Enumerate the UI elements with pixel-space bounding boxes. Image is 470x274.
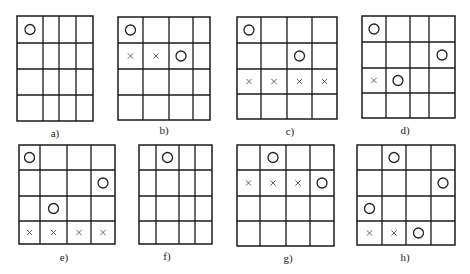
grid-panel-h: h) <box>357 145 455 264</box>
circle-mark-icon <box>393 76 403 86</box>
grid-panel-g: g) <box>237 145 334 265</box>
circle-mark-icon <box>389 153 399 163</box>
circle-mark-icon <box>438 178 448 188</box>
circle-mark-icon <box>25 25 35 35</box>
grid-panel-f: f) <box>139 145 212 263</box>
cross-mark-icon <box>246 79 251 84</box>
cross-mark-icon <box>297 79 302 84</box>
panel-label-e: e) <box>60 251 69 264</box>
circle-mark-icon <box>244 25 254 35</box>
panel-label-b: b) <box>159 124 169 137</box>
grid-panel-e: e) <box>19 145 115 264</box>
circle-mark-icon <box>437 50 447 60</box>
cross-mark-icon <box>322 79 327 84</box>
cross-mark-icon <box>128 53 133 58</box>
cross-mark-icon <box>371 78 376 83</box>
circle-mark-icon <box>369 24 379 34</box>
circle-mark-icon <box>365 204 375 214</box>
cross-mark-icon <box>271 79 276 84</box>
cross-mark-icon <box>270 180 275 185</box>
circle-mark-icon <box>295 51 305 61</box>
grid-frame <box>362 16 455 118</box>
circle-mark-icon <box>126 25 136 35</box>
panel-label-c: c) <box>286 125 295 138</box>
panels-group: a)b)c)d)e)f)g)h) <box>17 16 455 265</box>
figure-canvas: a)b)c)d)e)f)g)h) <box>0 0 470 274</box>
panel-label-g: g) <box>283 252 293 265</box>
circle-mark-icon <box>268 153 278 163</box>
circle-mark-icon <box>317 178 327 188</box>
grid-frame <box>139 145 212 244</box>
circle-mark-icon <box>176 51 186 61</box>
panel-label-d: d) <box>400 124 410 137</box>
cross-mark-icon <box>367 230 372 235</box>
cross-mark-icon <box>27 230 32 235</box>
circle-mark-icon <box>98 178 108 188</box>
cross-mark-icon <box>100 230 105 235</box>
panel-label-h: h) <box>400 251 410 264</box>
circle-mark-icon <box>25 153 35 163</box>
circle-mark-icon <box>49 204 59 214</box>
circle-mark-icon <box>163 153 173 163</box>
cross-mark-icon <box>246 180 251 185</box>
cross-mark-icon <box>153 53 158 58</box>
cross-mark-icon <box>391 230 396 235</box>
grid-panel-d: d) <box>362 16 455 137</box>
grid-panel-a: a) <box>17 16 93 140</box>
panel-label-f: f) <box>163 250 171 263</box>
cross-mark-icon <box>51 230 56 235</box>
circle-mark-icon <box>414 228 424 238</box>
panel-label-a: a) <box>51 127 60 140</box>
cross-mark-icon <box>76 230 81 235</box>
grid-panel-b: b) <box>118 17 210 137</box>
cross-mark-icon <box>295 180 300 185</box>
grid-panel-c: c) <box>237 17 337 138</box>
